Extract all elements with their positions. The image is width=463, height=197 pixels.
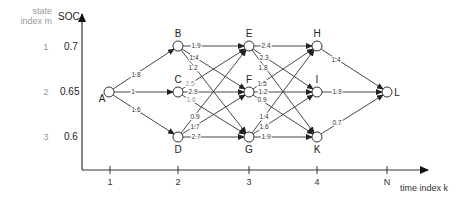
edge-label-F-H: 1.5 [257, 80, 266, 87]
node-A [104, 87, 114, 97]
state-index-3: 3 [43, 131, 48, 142]
edge-label-A-D: 1.6 [131, 106, 140, 113]
edge-label-D-F: 1.7 [190, 123, 199, 130]
x-tick-n: N [384, 177, 391, 187]
edge-label-A-C: 1 [131, 88, 135, 95]
node-H [312, 41, 322, 51]
node-L [382, 87, 392, 97]
soc-axis-title: SOC [58, 11, 80, 22]
edge-label-E-H: 2.4 [261, 42, 270, 49]
edge-label-D-E: 0.9 [190, 113, 199, 120]
edge-label-G-K: 1.9 [261, 133, 270, 140]
x-tick-3: 3 [246, 177, 251, 187]
edge-label-C-E: 2.5 [185, 80, 194, 87]
node-label-D: D [174, 144, 181, 155]
edge-label-F-K: 0.9 [257, 96, 266, 103]
dp-graph-diagram: state index m SOC 1 0.7 2 0.65 3 0.6 1 2… [0, 0, 463, 197]
soc-value-2: 0.65 [60, 86, 80, 97]
edge-label-D-G: 2.7 [191, 133, 200, 140]
node-label-L: L [394, 87, 400, 98]
node-label-H: H [313, 28, 320, 39]
x-tick-1: 1 [107, 177, 112, 187]
node-label-E: E [246, 28, 253, 39]
x-tick-4: 4 [314, 177, 319, 187]
edge-label-I-L: 1.9 [332, 88, 341, 95]
edge-label-C-F: 2.9 [188, 88, 197, 95]
node-F [244, 87, 254, 97]
node-label-B: B [175, 28, 182, 39]
node-label-C: C [174, 74, 181, 85]
edge-label-E-K: 1.8 [258, 64, 267, 71]
node-C [173, 87, 183, 97]
node-K [312, 132, 322, 142]
edge-label-G-I: 1.6 [259, 123, 268, 130]
node-label-K: K [314, 144, 321, 155]
edge-label-G-H: 1.4 [259, 113, 268, 120]
node-G [244, 132, 254, 142]
edge-label-H-L: 1.4 [331, 56, 340, 63]
edge-label-K-L: 0.7 [332, 119, 341, 126]
edge-label-C-G: 1.6 [186, 96, 195, 103]
edge-label-B-F: 1.4 [189, 54, 198, 61]
state-index-1: 1 [43, 41, 48, 52]
edge-label-B-E: 1.9 [191, 42, 200, 49]
node-D [173, 132, 183, 142]
node-label-G: G [245, 144, 253, 155]
edge-label-B-G: 1.2 [188, 64, 197, 71]
state-index-2: 2 [43, 86, 48, 97]
node-B [173, 41, 183, 51]
soc-value-3: 0.6 [64, 131, 78, 142]
edge-label-F-I: 1.2 [258, 88, 267, 95]
node-label-F: F [246, 74, 252, 85]
node-label-I: I [316, 74, 319, 85]
edge-label-E-I: 2.3 [259, 54, 268, 61]
node-E [244, 41, 254, 51]
x-tick-2: 2 [175, 177, 180, 187]
state-index-header-2: index m [20, 16, 52, 26]
node-I [312, 87, 322, 97]
state-index-header: state [32, 6, 52, 16]
x-axis-title: time index k [400, 183, 449, 193]
edge-label-A-B: 1.8 [131, 71, 140, 78]
soc-value-1: 0.7 [64, 41, 78, 52]
node-label-A: A [99, 93, 106, 104]
